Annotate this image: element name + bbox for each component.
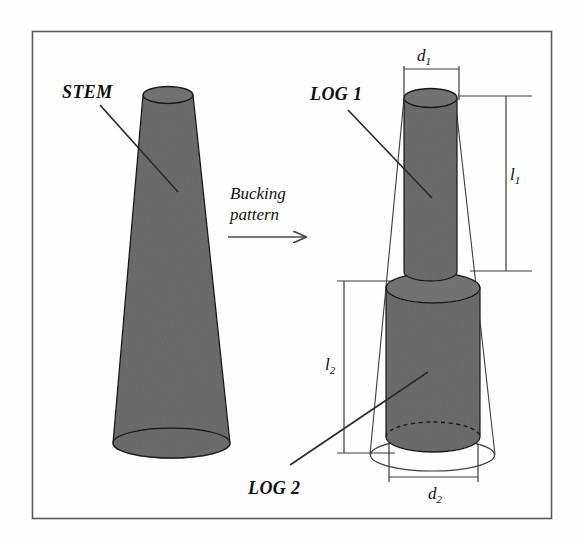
dimension-label-l2: l2 bbox=[325, 355, 335, 376]
bucking-caption-line1: Bucking bbox=[230, 184, 286, 205]
log2-label: LOG 2 bbox=[248, 478, 301, 499]
bucking-pattern-caption: Bucking pattern bbox=[230, 184, 286, 225]
dimension-subscript-d1: 1 bbox=[426, 55, 432, 67]
dimension-label-d1: d1 bbox=[417, 46, 431, 67]
dimension-subscript-l1: 1 bbox=[515, 174, 521, 186]
stem-base-ellipse bbox=[113, 428, 230, 458]
figure-container: STEM LOG 1 LOG 2 Bucking pattern d1 l1 l… bbox=[0, 0, 580, 541]
log2-body bbox=[386, 288, 480, 452]
stem-label: STEM bbox=[62, 82, 113, 103]
figure-border bbox=[33, 32, 552, 519]
log1-shape bbox=[404, 89, 457, 282]
dimension-subscript-d2: 2 bbox=[437, 493, 443, 505]
stem-top-ellipse bbox=[143, 87, 193, 104]
dimension-label-l1: l1 bbox=[510, 165, 520, 186]
stem-body bbox=[113, 95, 230, 458]
dimension-symbol-d1: d bbox=[417, 46, 426, 65]
log1-top-ellipse bbox=[404, 89, 457, 108]
stem-shape bbox=[113, 87, 230, 459]
bucking-caption-line2: pattern bbox=[230, 205, 286, 226]
dimension-subscript-l2: 2 bbox=[330, 364, 336, 376]
dimension-label-d2: d2 bbox=[428, 484, 442, 505]
log1-label: LOG 1 bbox=[310, 84, 363, 105]
dimension-symbol-d2: d bbox=[428, 484, 437, 503]
dimension-l1 bbox=[458, 96, 532, 271]
log1-body bbox=[404, 98, 457, 281]
log2-shape bbox=[386, 273, 480, 452]
